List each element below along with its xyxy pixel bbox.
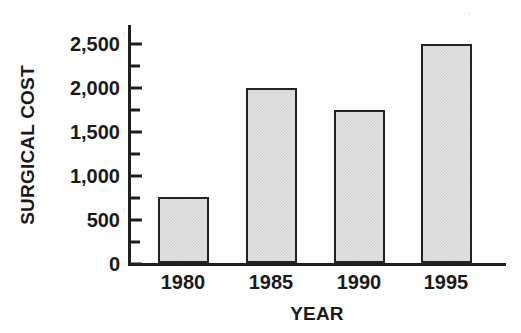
x-tick-label-1995: 1995: [391, 272, 501, 292]
y-tick-mark-2250: [131, 65, 140, 68]
x-axis-line: [128, 263, 506, 266]
y-tick-mark-1500: [131, 131, 142, 134]
y-tick-label-0: 0: [42, 254, 120, 274]
y-tick-label-1000: 1,000: [42, 166, 120, 186]
y-tick-mark-1750: [131, 109, 140, 112]
y-axis-title: SURGICAL COST: [11, 0, 45, 290]
y-axis-tick-labels: 0 500 1,000 1,500 2,000 2,500: [42, 0, 120, 333]
y-tick-label-2000: 2,000: [42, 78, 120, 98]
bar-1995: [421, 44, 472, 263]
y-tick-label-2500: 2,500: [42, 34, 120, 54]
y-tick-label-1500: 1,500: [42, 122, 120, 142]
x-axis-title: YEAR: [128, 303, 506, 325]
chart-figure: SURGICAL COST 0 500 1,000 1,500 2,000 2,…: [0, 0, 521, 333]
y-tick-mark-250: [131, 241, 140, 244]
y-tick-mark-2500: [131, 43, 142, 46]
bar-1980: [158, 197, 209, 263]
y-tick-mark-0: [131, 263, 142, 266]
y-tick-mark-1000: [131, 175, 142, 178]
y-axis-line: [128, 25, 131, 265]
y-tick-label-500: 500: [42, 210, 120, 230]
y-tick-mark-750: [131, 197, 140, 200]
y-tick-mark-2000: [131, 87, 142, 90]
bar-1990: [334, 110, 385, 263]
y-tick-mark-500: [131, 219, 142, 222]
y-tick-mark-1250: [131, 153, 140, 156]
scan-speck: [468, 13, 470, 15]
bar-1985: [246, 88, 297, 263]
